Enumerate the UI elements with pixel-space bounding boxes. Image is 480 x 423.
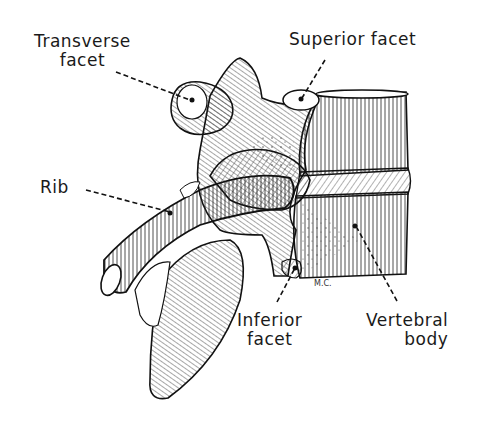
label-transverse-facet: Transverse facet [34,32,131,70]
label-vertebral-body: Vertebral body [366,311,448,349]
label-inferior-line2: facet [237,330,302,349]
artist-signature: M.C. [314,279,332,288]
label-inferior-line1: Inferior [237,311,302,330]
label-vertebral-line1: Vertebral [366,311,448,330]
label-vertebral-line2: body [366,330,448,349]
label-transverse-line2: facet [34,51,131,70]
label-rib: Rib [40,178,69,197]
label-inferior-facet: Inferior facet [237,311,302,349]
label-superior-facet: Superior facet [289,30,416,49]
label-transverse-line1: Transverse [34,32,131,51]
